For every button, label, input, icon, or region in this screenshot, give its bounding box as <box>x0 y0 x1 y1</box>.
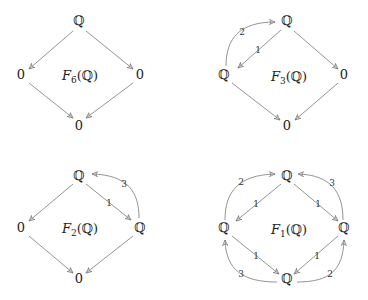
edge-label: 3 <box>329 178 335 188</box>
arrow-right-top-curved <box>298 174 343 220</box>
title-arg: (ℚ) <box>77 221 98 236</box>
node-left: ℚ <box>218 220 229 235</box>
node-left: 0 <box>17 220 25 235</box>
arrow-bottom-right-curved <box>297 240 344 282</box>
diagram-f6: ℚ 0 0 0 F6(ℚ) <box>17 13 144 133</box>
edge-label: 1 <box>314 251 320 261</box>
edge-label: 1 <box>255 45 261 55</box>
diagram-title: F3(ℚ) <box>270 69 307 86</box>
arrow-top-left <box>29 31 73 69</box>
node-bottom: 0 <box>75 271 83 286</box>
node-right: 0 <box>136 67 144 82</box>
node-top: ℚ <box>281 13 292 28</box>
diagram-title: F2(ℚ) <box>61 221 98 238</box>
node-bottom: ℚ <box>281 271 292 286</box>
arrow-left-top-curved <box>226 22 275 66</box>
node-top: ℚ <box>73 13 84 28</box>
diagram-f2: ℚ 0 ℚ 0 F2(ℚ) 1 3 <box>17 168 146 286</box>
title-arg: (ℚ) <box>286 222 307 237</box>
node-left: ℚ <box>218 67 229 82</box>
node-bottom: 0 <box>283 118 291 133</box>
edge-label: 2 <box>239 27 245 37</box>
arrow-left-bottom <box>29 83 73 118</box>
arrow-bottom-left-curved <box>225 240 277 282</box>
title-arg: (ℚ) <box>77 68 98 83</box>
edge-label: 3 <box>121 179 127 189</box>
node-right: ℚ <box>134 220 145 235</box>
node-right: ℚ <box>338 220 349 235</box>
edge-label: 1 <box>253 251 259 261</box>
node-left: 0 <box>17 67 25 82</box>
diagram-f1: ℚ ℚ ℚ ℚ F1(ℚ) 1 1 1 1 2 3 3 2 <box>218 168 349 286</box>
arrow-right-bottom <box>86 83 133 118</box>
edge-label: 3 <box>238 269 244 279</box>
title-arg: (ℚ) <box>286 69 307 84</box>
edge-label: 1 <box>253 199 259 209</box>
edge-label: 2 <box>327 269 333 279</box>
node-top: ℚ <box>73 168 84 183</box>
arrow-right-top-curved <box>92 174 139 218</box>
quiver-diagrams: ℚ 0 0 0 F6(ℚ) ℚ ℚ 0 0 F3(ℚ) 1 2 ℚ 0 ℚ 0 … <box>0 0 368 300</box>
node-top: ℚ <box>281 168 292 183</box>
arrow-left-top-curved <box>225 174 275 220</box>
arrow-left-bottom <box>29 236 73 273</box>
arrow-top-right <box>294 31 338 69</box>
diagram-f3: ℚ ℚ 0 0 F3(ℚ) 1 2 <box>218 13 348 133</box>
edge-label: 1 <box>106 198 112 208</box>
arrow-top-right <box>86 31 133 69</box>
diagram-title: F6(ℚ) <box>61 68 98 85</box>
node-right: 0 <box>340 67 348 82</box>
arrow-right-bottom <box>86 236 133 273</box>
diagram-title: F1(ℚ) <box>270 222 307 239</box>
arrow-left-bottom <box>232 83 280 120</box>
edge-label: 2 <box>238 177 244 187</box>
arrow-right-bottom <box>295 83 338 120</box>
arrow-top-left <box>29 184 73 221</box>
edge-label: 1 <box>315 199 321 209</box>
node-bottom: 0 <box>75 118 83 133</box>
